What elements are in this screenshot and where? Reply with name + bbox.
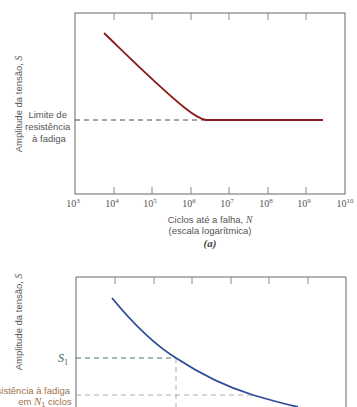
chart-a-xlabel-sub: (escala logarítmica) [169,225,252,236]
chart-a: Limite de resistência à fadiga Amplitude… [13,13,354,250]
chart-a-xlabel: Ciclos até a falha, N [168,214,253,225]
chart-a-bottom-ticks [114,187,306,194]
svg-text:1010: 1010 [337,197,355,209]
chart-a-caption: (a) [204,237,217,250]
chart-a-top-ticks [114,13,306,20]
figure: Limite de resistência à fadiga Amplitude… [0,0,357,407]
chart-b-top-ticks [115,277,308,284]
chart-b: S1 Resistência à fadiga em N1 ciclos Amp… [0,273,346,407]
svg-text:105: 105 [143,197,157,209]
svg-text:109: 109 [297,197,311,209]
chart-a-x-tick-labels: 103 104 105 106 107 108 109 1010 [66,197,354,209]
svg-text:104: 104 [105,197,119,209]
fatigue-strength-label-line2: em N1 ciclos [18,395,72,407]
s1-label: S1 [58,351,68,367]
chart-b-ylabel: Amplitude da tensão, S [13,273,24,370]
svg-text:107: 107 [220,197,234,209]
svg-text:106: 106 [182,197,196,209]
chart-a-frame [75,13,345,194]
svg-text:103: 103 [66,197,80,209]
sn-curve-b [112,298,298,407]
chart-a-ylabel: Amplitude da tensão, S [13,55,24,152]
fatigue-limit-label: Limite de resistência à fadiga [25,109,73,144]
sn-curve-a [104,33,323,120]
svg-text:108: 108 [259,197,273,209]
